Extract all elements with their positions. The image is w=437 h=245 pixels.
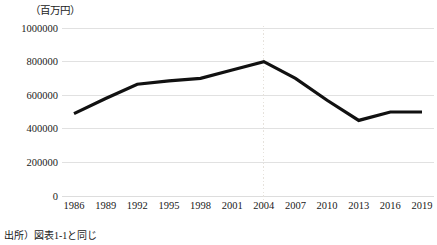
- source-note: 出所）図表1-1と同じ: [4, 229, 97, 243]
- series-line-0: [74, 62, 422, 121]
- y-axis-tick-labels: 02000004000006000008000001000000: [0, 28, 58, 196]
- y-tick-label: 400000: [2, 123, 58, 134]
- y-tick-label: 800000: [2, 56, 58, 67]
- y-tick-label: 1000000: [2, 23, 58, 34]
- y-axis-unit-label: （百万円）: [30, 4, 80, 18]
- data-series: [74, 62, 422, 121]
- y-tick-label: 600000: [2, 90, 58, 101]
- line-chart-svg: [62, 28, 434, 196]
- gridlines: [62, 28, 434, 196]
- y-tick-label: 0: [2, 191, 58, 202]
- x-axis-tick-labels: 1986198919921995199820012004200720102013…: [62, 199, 434, 215]
- figure-root: （百万円） 02000004000006000008000001000000 1…: [0, 0, 437, 245]
- y-tick-label: 200000: [2, 157, 58, 168]
- plot-area: [62, 28, 434, 196]
- x-tick-label: 2019: [402, 199, 437, 213]
